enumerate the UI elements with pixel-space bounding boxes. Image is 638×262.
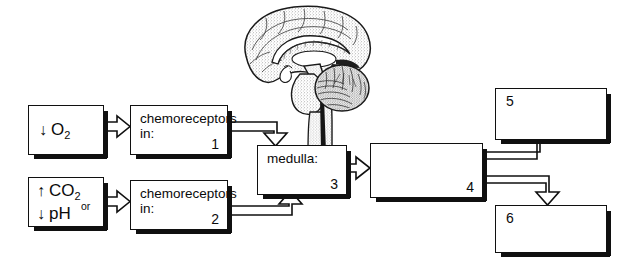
stimulus-co2-text: ↑CO2 [37,181,81,202]
box-6-number: 6 [506,210,514,226]
up-arrow-icon: ↑ [37,182,45,199]
box-5-response: 5 [495,88,607,140]
stimulus-o2-subscript: 2 [64,129,70,141]
box-5-number: 5 [506,93,514,109]
stimulus-o2-text: ↓O2 [39,120,70,141]
stimulus-co2-subscript: 2 [75,190,81,202]
box-6-response: 6 [495,205,607,253]
down-arrow-icon: ↓ [37,205,45,222]
stimulus-co2-analyte: CO [49,181,75,200]
arrow-box4-to-box6 [483,176,559,205]
box-2-number: 2 [211,211,219,227]
box-4-effector: 4 [370,143,483,198]
stimulus-ph-analyte: pH [49,204,71,223]
stimulus-co2-ph-box: ↑CO2 or ↓pH [28,177,104,227]
box-2-chemoreceptors: chemoreceptors in: 2 [130,180,228,230]
box-3-number: 3 [330,176,338,192]
box-1-chemoreceptors: chemoreceptors in: 1 [130,105,228,155]
stimulus-ph-text: ↓pH [37,204,71,224]
down-arrow-icon: ↓ [39,121,47,138]
box-4-number: 4 [466,179,474,195]
stimulus-or-connector: or [81,200,90,212]
brain-midsagittal-illustration [232,2,392,152]
box-1-label: chemoreceptors in: [140,111,237,141]
box-1-number: 1 [211,136,219,152]
stimulus-o2-box: ↓O2 [28,105,104,155]
box-3-medulla: medulla: 3 [257,145,347,195]
box-3-label: medulla: [267,151,318,166]
box-2-label: chemoreceptors in: [140,186,237,216]
diagram-canvas: ↓O2 ↑CO2 or ↓pH chemoreceptors in: 1 che… [0,0,638,262]
stimulus-o2-analyte: O [51,120,64,139]
